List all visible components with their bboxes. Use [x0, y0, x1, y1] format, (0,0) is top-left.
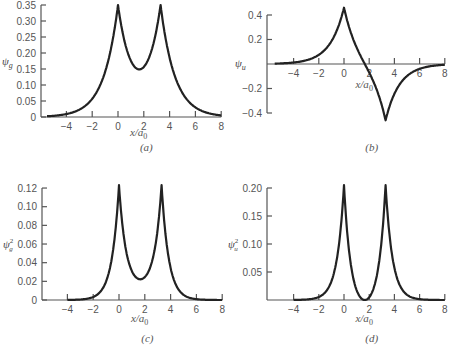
y-tick-label: 0.04: [18, 257, 38, 268]
x-tick-label: −2: [313, 304, 325, 315]
x-tick-label: −2: [86, 121, 98, 132]
y-tick-label: 0.20: [243, 183, 263, 194]
x-tick-label: −2: [313, 68, 325, 79]
panel-d: 0.050.100.150.20−4−202468x/a0ψ2u(d): [228, 183, 448, 346]
y-tick-label: 0.12: [18, 183, 38, 194]
x-tick-label: 4: [167, 121, 173, 132]
figure-canvas: 00.050.100.150.200.250.300.35−4−202468x/…: [0, 0, 455, 354]
y-tick-label: −0.4: [242, 108, 262, 119]
x-axis-label: x/a0: [354, 78, 372, 93]
y-tick-label: 0.08: [18, 220, 38, 231]
x-tick-label: −4: [62, 304, 74, 315]
y-axis-label: ψu: [235, 57, 246, 72]
y-tick-label: −0.2: [242, 83, 262, 94]
data-curve: [67, 185, 222, 300]
x-tick-label: 6: [417, 304, 423, 315]
x-tick-label: 4: [392, 68, 398, 79]
panel-caption: (c): [141, 332, 154, 345]
x-tick-label: 4: [392, 304, 398, 315]
y-tick-label: 0.15: [17, 64, 37, 75]
x-tick-label: 8: [442, 68, 448, 79]
x-tick-label: 0: [115, 121, 121, 132]
y-axis-label: ψ2u: [228, 237, 239, 253]
x-tick-label: 0: [341, 68, 347, 79]
data-curve: [294, 185, 445, 300]
y-tick-label: 0.06: [18, 239, 38, 250]
y-axis-label: ψg: [2, 55, 13, 70]
x-tick-label: 6: [193, 121, 199, 132]
x-tick-label: 6: [194, 304, 200, 315]
panel-c: 00.020.040.060.080.100.12−4−202468x/a0ψ2…: [3, 183, 225, 345]
y-axis-label: ψ2g: [3, 237, 14, 253]
x-tick-label: −4: [288, 304, 300, 315]
panel-a: 00.050.100.150.200.250.300.35−4−202468x/…: [2, 0, 224, 154]
y-tick-label: 0.02: [18, 276, 38, 287]
panel-caption: (a): [140, 141, 153, 154]
y-tick-label: 0.10: [243, 239, 263, 250]
y-tick-label: 0.05: [243, 267, 263, 278]
y-tick-label: 0: [31, 295, 37, 306]
y-tick-label: 0.4: [248, 10, 262, 21]
x-tick-label: −4: [61, 121, 73, 132]
y-tick-label: 0: [30, 112, 36, 123]
y-tick-label: 0.15: [243, 211, 263, 222]
x-tick-label: 8: [442, 304, 448, 315]
y-tick-label: 0.30: [17, 16, 37, 27]
y-tick-label: 0.35: [17, 0, 37, 11]
y-tick-label: 0.25: [17, 32, 37, 43]
y-tick-label: 0.10: [18, 201, 38, 212]
y-tick-label: 0.20: [17, 48, 37, 59]
x-tick-label: 8: [218, 121, 224, 132]
x-tick-label: −4: [288, 68, 300, 79]
y-tick-label: 0.10: [17, 80, 37, 91]
panel-caption: (b): [365, 141, 378, 154]
x-tick-label: −2: [87, 304, 99, 315]
x-tick-label: 0: [341, 304, 347, 315]
y-tick-label: 0.05: [17, 96, 37, 107]
x-tick-label: 4: [168, 304, 174, 315]
data-curve: [47, 5, 221, 116]
y-tick-label: 0.2: [248, 34, 262, 45]
panel-caption: (d): [365, 332, 378, 345]
x-tick-label: 0: [116, 304, 122, 315]
x-tick-label: 8: [219, 304, 225, 315]
panel-b: −0.4−0.20.20.4−4−202468x/a0ψu(b): [235, 8, 448, 154]
